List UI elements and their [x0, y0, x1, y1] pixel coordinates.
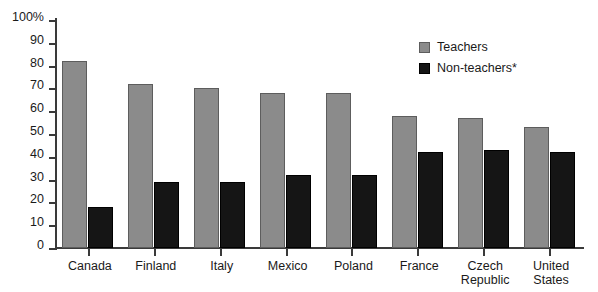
y-axis-tick-label: 0	[37, 239, 44, 251]
y-axis-tick-label: 50	[30, 125, 44, 137]
x-axis-label-line: States	[512, 273, 590, 287]
bar-group	[62, 20, 113, 248]
y-axis-tick: 10	[0, 225, 56, 226]
y-axis-tick: 100%	[0, 20, 56, 21]
x-axis-label-line: United	[512, 259, 590, 273]
y-axis-tick: 0	[0, 248, 56, 249]
y-axis-tick-label: 30	[30, 171, 44, 183]
bar-nonteachers	[352, 175, 377, 248]
bar-teachers	[62, 61, 87, 248]
y-axis-tick-mark	[49, 157, 56, 159]
y-axis-tick-mark	[49, 180, 56, 182]
y-axis-tick-mark	[49, 20, 56, 22]
y-axis-tick: 90	[0, 43, 56, 44]
bar-teachers	[458, 118, 483, 248]
bar-nonteachers	[154, 182, 179, 248]
y-axis-tick-label: 40	[30, 148, 44, 160]
x-axis-tick-mark	[417, 249, 419, 256]
bar-teachers	[128, 84, 153, 248]
y-axis-tick-mark	[49, 111, 56, 113]
x-axis-tick-mark	[154, 249, 156, 256]
y-axis-tick-mark	[49, 66, 56, 68]
legend-swatch-teachers-icon	[419, 42, 430, 53]
y-axis-tick-mark	[49, 88, 56, 90]
legend-label: Non-teachers*	[437, 62, 517, 75]
y-axis-tick: 70	[0, 88, 56, 89]
y-axis-tick-mark	[49, 43, 56, 45]
bar-nonteachers	[286, 175, 311, 248]
legend-item: Teachers	[419, 38, 517, 56]
bar-teachers	[392, 116, 417, 248]
y-axis-tick: 30	[0, 180, 56, 181]
y-axis-tick: 60	[0, 111, 56, 112]
bar-chart: 0102030405060708090100% CanadaFinlandIta…	[0, 0, 598, 292]
y-axis-tick-label: 60	[30, 102, 44, 114]
bar-group	[260, 20, 311, 248]
y-axis-tick-label: 70	[30, 79, 44, 91]
bar-nonteachers	[418, 152, 443, 248]
y-axis-tick-label: 90	[30, 34, 44, 46]
bar-teachers	[194, 88, 219, 248]
x-axis-tick-mark	[351, 249, 353, 256]
bar-group	[326, 20, 377, 248]
bar-group	[194, 20, 245, 248]
bar-teachers	[326, 93, 351, 248]
bar-teachers	[524, 127, 549, 248]
y-axis-tick: 80	[0, 66, 56, 67]
bar-nonteachers	[88, 207, 113, 248]
bar-nonteachers	[550, 152, 575, 248]
legend-swatch-nonteachers-icon	[419, 63, 430, 74]
y-axis-tick-mark	[49, 134, 56, 136]
bar-nonteachers	[484, 150, 509, 248]
x-axis-label: UnitedStates	[512, 259, 590, 287]
y-axis-tick: 50	[0, 134, 56, 135]
legend: TeachersNon-teachers*	[419, 38, 517, 80]
y-axis-tick-mark	[49, 202, 56, 204]
x-axis-tick-mark	[88, 249, 90, 256]
bar-nonteachers	[220, 182, 245, 248]
bar-group	[128, 20, 179, 248]
x-axis-tick-mark	[549, 249, 551, 256]
y-axis-tick: 40	[0, 157, 56, 158]
y-axis-tick-mark	[49, 225, 56, 227]
x-axis-tick-mark	[220, 249, 222, 256]
legend-item: Non-teachers*	[419, 59, 517, 77]
y-axis-tick-label: 100%	[12, 11, 44, 23]
y-axis-tick-label: 20	[30, 193, 44, 205]
y-axis-tick: 20	[0, 202, 56, 203]
y-axis-tick-label: 80	[30, 57, 44, 69]
bar-group	[524, 20, 575, 248]
legend-label: Teachers	[437, 41, 488, 54]
bar-teachers	[260, 93, 285, 248]
x-axis-tick-mark	[286, 249, 288, 256]
y-axis-tick-label: 10	[30, 216, 44, 228]
y-axis-tick-mark	[49, 248, 56, 250]
x-axis-tick-mark	[483, 249, 485, 256]
